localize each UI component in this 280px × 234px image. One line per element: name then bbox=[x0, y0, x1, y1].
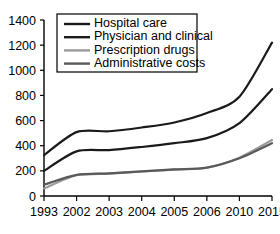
legend-label-2: Prescription drugs bbox=[94, 43, 195, 57]
x-tick-label: 2010 bbox=[226, 205, 254, 219]
y-tick-label: 1400 bbox=[8, 14, 36, 28]
y-tick-label: 200 bbox=[15, 164, 36, 178]
x-tick-labels: 19932002200320042005200620102015 bbox=[30, 205, 280, 219]
legend-label-3: Administrative costs bbox=[94, 56, 205, 70]
chart-container: 0200400600800100012001400 19932002200320… bbox=[0, 0, 280, 234]
y-tick-label: 1200 bbox=[8, 39, 36, 53]
chart-legend: Hospital carePhysician and clinicalPresc… bbox=[57, 14, 213, 72]
x-tick-label: 2005 bbox=[160, 205, 188, 219]
x-tick-label: 2003 bbox=[95, 205, 123, 219]
y-tick-label: 0 bbox=[29, 190, 36, 204]
y-tick-label: 800 bbox=[15, 89, 36, 103]
y-tick-label: 600 bbox=[15, 114, 36, 128]
y-tick-label: 1000 bbox=[8, 64, 36, 78]
y-tick-labels: 0200400600800100012001400 bbox=[8, 14, 36, 204]
x-tick-label: 2004 bbox=[128, 205, 156, 219]
series-line-2 bbox=[44, 140, 272, 188]
x-tick-label: 1993 bbox=[30, 205, 58, 219]
x-tick-label: 2015 bbox=[258, 205, 280, 219]
line-chart: 0200400600800100012001400 19932002200320… bbox=[0, 0, 280, 234]
x-tick-label: 2006 bbox=[193, 205, 221, 219]
legend-label-0: Hospital care bbox=[94, 16, 167, 30]
x-tick-label: 2002 bbox=[63, 205, 91, 219]
x-tick-marks bbox=[44, 196, 272, 201]
legend-label-1: Physician and clinical bbox=[94, 29, 213, 43]
series-line-3 bbox=[44, 143, 272, 184]
x-axis-group: 19932002200320042005200620102015 bbox=[30, 196, 280, 219]
y-tick-label: 400 bbox=[15, 139, 36, 153]
y-axis-group: 0200400600800100012001400 bbox=[8, 14, 44, 204]
